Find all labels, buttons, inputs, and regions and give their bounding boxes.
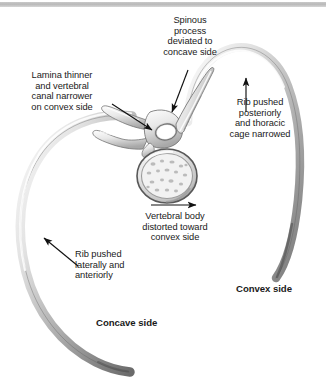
figure-caption — [6, 378, 320, 387]
label-convex-side: Convex side — [236, 284, 326, 295]
label-spinous-process: Spinous process deviated to concave side — [139, 15, 241, 57]
label-rib-posterior: Rib pushed posteriorly and thoracic cage… — [204, 97, 316, 139]
vertebral-body — [137, 149, 197, 203]
label-vertebral-body: Vertebral body distorted toward convex s… — [119, 211, 231, 243]
rib-concave-side — [20, 113, 132, 372]
figure-canvas: Spinous process deviated to concave side… — [0, 0, 326, 387]
anatomy-illustration — [0, 0, 326, 387]
transverse-process-left — [93, 130, 148, 149]
label-lamina: Lamina thinner and vertebral canal narro… — [6, 70, 118, 112]
label-rib-lateral: Rib pushed laterally and anteriorly — [75, 249, 155, 281]
arrow-to-lateral-rib — [44, 238, 78, 266]
label-concave-side: Concave side — [96, 318, 196, 329]
